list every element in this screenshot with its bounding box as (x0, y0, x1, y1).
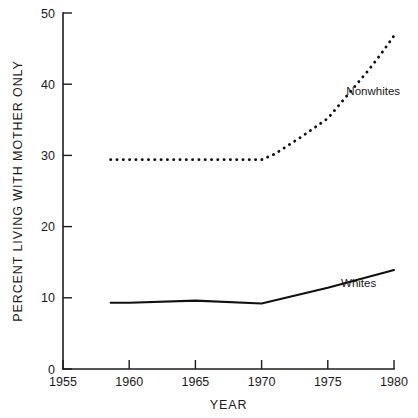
x-axis-ticks (63, 360, 394, 369)
x-tick-label-1960: 1960 (115, 375, 143, 389)
chart-container: 0 10 20 30 40 50 1955 1960 1965 1970 197… (0, 0, 418, 418)
x-axis-tick-labels: 1955 1960 1965 1970 1975 1980 (49, 375, 408, 389)
x-tick-label-1970: 1970 (248, 375, 276, 389)
y-tick-label-30: 30 (41, 149, 55, 163)
series-label-whites: Whites (341, 277, 376, 289)
x-axis-title: YEAR (210, 398, 248, 412)
axes-group (63, 13, 394, 369)
y-tick-label-40: 40 (41, 78, 55, 92)
series-label-nonwhites: Nonwhites (346, 85, 400, 97)
x-tick-label-1955: 1955 (49, 375, 77, 389)
y-tick-label-10: 10 (41, 291, 55, 305)
y-tick-label-20: 20 (41, 220, 55, 234)
x-tick-label-1965: 1965 (181, 375, 209, 389)
y-axis-tick-labels: 0 10 20 30 40 50 (41, 7, 55, 377)
y-axis-title: PERCENT LIVING WITH MOTHER ONLY (11, 60, 25, 322)
x-tick-label-1980: 1980 (380, 375, 408, 389)
y-tick-label-50: 50 (41, 7, 55, 21)
line-chart: 0 10 20 30 40 50 1955 1960 1965 1970 197… (0, 0, 418, 418)
x-tick-label-1975: 1975 (314, 375, 342, 389)
series-line-nonwhites (111, 36, 394, 160)
y-axis-ticks (63, 13, 72, 369)
